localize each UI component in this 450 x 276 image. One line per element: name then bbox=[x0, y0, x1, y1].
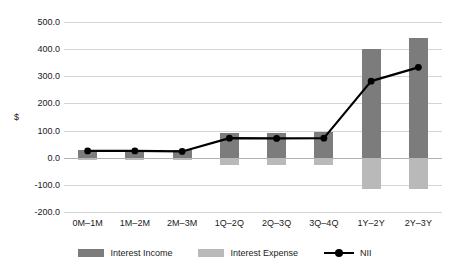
y-axis-tick-label: 400.0 bbox=[22, 44, 60, 54]
nii-marker-group bbox=[84, 64, 422, 155]
x-axis-tick-label: 2M–3M bbox=[167, 218, 197, 228]
nii-data-point bbox=[131, 148, 138, 155]
nii-data-point bbox=[320, 135, 327, 142]
legend-line-marker-icon bbox=[324, 249, 354, 257]
legend-label: Interest Expense bbox=[230, 248, 298, 258]
x-axis-tick-label: 3Q–4Q bbox=[309, 218, 338, 228]
legend-color-swatch bbox=[198, 249, 224, 257]
x-axis-tick-label: 1M–2M bbox=[120, 218, 150, 228]
y-axis-tick-label: 300.0 bbox=[22, 71, 60, 81]
y-axis-tick-label: 100.0 bbox=[22, 126, 60, 136]
nii-data-point bbox=[179, 148, 186, 155]
legend-item[interactable]: NII bbox=[324, 248, 372, 258]
y-axis-tick-label: 200.0 bbox=[22, 98, 60, 108]
y-axis-tick-label: 500.0 bbox=[22, 17, 60, 27]
gridline bbox=[64, 212, 442, 213]
y-axis-tick-label: -200.0 bbox=[22, 207, 60, 217]
y-axis-tick-labels: 500.0400.0300.0200.0100.00.0-100.0-200.0 bbox=[22, 0, 60, 276]
legend-color-swatch bbox=[78, 249, 104, 257]
nii-data-point bbox=[415, 64, 422, 71]
nii-data-point bbox=[273, 135, 280, 142]
nii-data-point bbox=[368, 78, 375, 85]
nii-data-point bbox=[84, 148, 91, 155]
y-axis-title: $ bbox=[14, 112, 19, 122]
x-axis-tick-label: 2Y–3Y bbox=[405, 218, 432, 228]
chart-container: $ 500.0400.0300.0200.0100.00.0-100.0-200… bbox=[0, 0, 450, 276]
x-axis-tick-label: 1Q–2Q bbox=[215, 218, 244, 228]
legend-label: Interest Income bbox=[110, 248, 172, 258]
legend-item[interactable]: Interest Expense bbox=[198, 248, 298, 258]
x-axis-tick-label: 2Q–3Q bbox=[262, 218, 291, 228]
legend-label: NII bbox=[360, 248, 372, 258]
plot-area bbox=[64, 22, 442, 212]
y-axis-tick-label: -100.0 bbox=[22, 180, 60, 190]
nii-line-series bbox=[64, 22, 442, 212]
x-axis-tick-label: 1Y–2Y bbox=[358, 218, 385, 228]
legend-marker-dot-icon bbox=[335, 249, 343, 257]
x-axis-tick-labels: 0M–1M1M–2M2M–3M1Q–2Q2Q–3Q3Q–4Q1Y–2Y2Y–3Y bbox=[64, 218, 442, 234]
legend-item[interactable]: Interest Income bbox=[78, 248, 172, 258]
nii-data-point bbox=[226, 135, 233, 142]
x-axis-tick-label: 0M–1M bbox=[73, 218, 103, 228]
y-axis-tick-label: 0.0 bbox=[22, 153, 60, 163]
chart-legend: Interest IncomeInterest ExpenseNII bbox=[0, 248, 450, 258]
